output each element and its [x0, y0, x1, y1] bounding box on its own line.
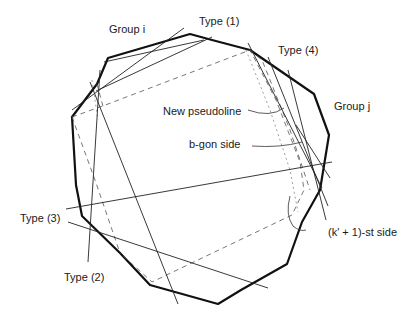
label-type2: Type (2)	[64, 271, 104, 283]
label-group-j: Group j	[334, 100, 370, 112]
label-type1: Type (1)	[199, 15, 239, 27]
pseudoline-diagram: Group i Type (1) Type (4) Group j New ps…	[0, 0, 416, 324]
pseudoline-group-i-diagonal	[72, 28, 184, 110]
leader-k1-side	[288, 196, 306, 231]
label-new-pseudoline: New pseudoline	[163, 105, 241, 117]
leader-bgon-side	[252, 142, 302, 147]
pseudoline-top-1	[104, 40, 204, 62]
label-type4: Type (4)	[278, 44, 318, 56]
pseudoline-type4-c	[288, 70, 326, 220]
label-group-i: Group i	[109, 23, 145, 35]
leader-new-pseudoline	[248, 108, 284, 114]
label-k1-side: (k' + 1)-st side	[328, 226, 397, 238]
pseudoline-type4-b	[268, 57, 328, 206]
pseudoline-type3-upper	[66, 162, 332, 209]
pseudoline-type4-a	[248, 43, 322, 188]
label-type3: Type (3)	[20, 212, 60, 224]
label-bgon-side: b-gon side	[189, 138, 240, 150]
